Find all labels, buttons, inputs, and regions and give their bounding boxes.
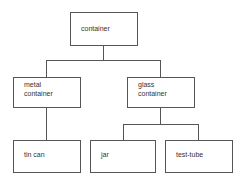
- edge-to-test-tube: [198, 124, 199, 140]
- edge-root-down: [103, 45, 104, 60]
- node-label-line1: metal: [24, 80, 41, 89]
- node-metal-container: metal container: [13, 77, 81, 108]
- node-jar: jar: [90, 140, 156, 173]
- edge-glass-down: [160, 107, 161, 124]
- node-label: tin can: [24, 150, 45, 159]
- edge-to-jar: [123, 124, 124, 140]
- node-glass-container: glass container: [127, 77, 195, 108]
- node-label-line2: container: [24, 89, 53, 98]
- node-label: test-tube: [176, 150, 203, 159]
- node-label: jar: [101, 150, 109, 159]
- node-label-line1: glass: [138, 80, 154, 89]
- edge-metal-to-tin-can: [46, 107, 47, 140]
- edge-glass-branch: [123, 124, 199, 125]
- edge-to-metal: [46, 60, 47, 77]
- node-label-line2: container: [138, 89, 167, 98]
- edge-to-glass: [160, 60, 161, 77]
- edge-root-branch: [46, 60, 161, 61]
- node-label: container: [81, 24, 110, 33]
- node-test-tube: test-tube: [165, 140, 233, 173]
- node-container: container: [70, 12, 138, 46]
- node-tin-can: tin can: [13, 140, 81, 173]
